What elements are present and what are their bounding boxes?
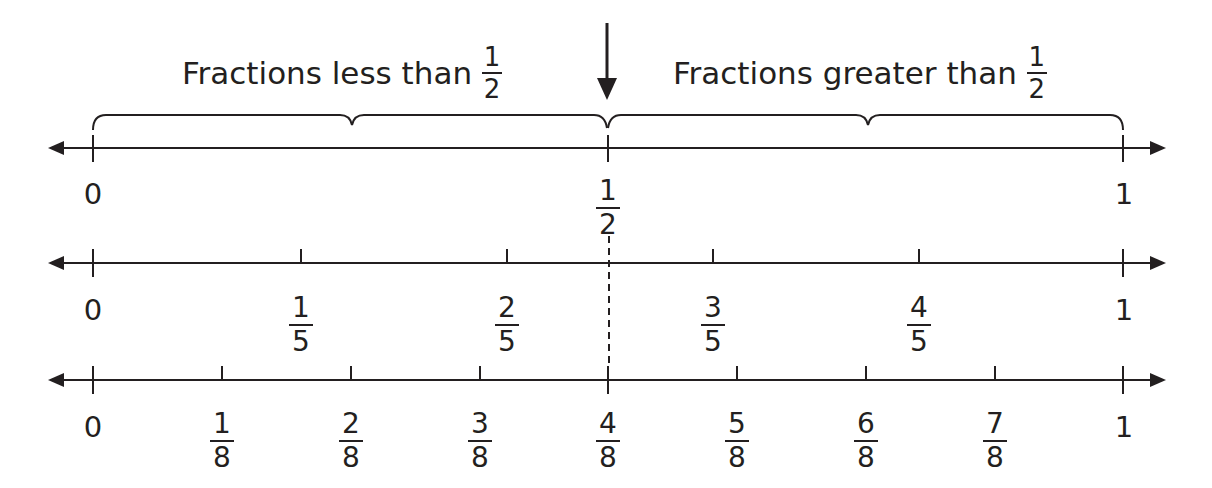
heading-fraction: 1 2 — [1027, 44, 1047, 102]
denominator: 5 — [910, 326, 928, 356]
denominator: 5 — [498, 326, 516, 356]
label-2-5: 2 5 — [495, 294, 519, 356]
left-arrow-icon — [48, 373, 64, 387]
denominator: 8 — [857, 442, 875, 472]
denominator: 8 — [599, 442, 617, 472]
label-3-5: 3 5 — [701, 294, 725, 356]
denominator: 8 — [728, 442, 746, 472]
label-1: 1 — [1115, 180, 1133, 209]
left-arrow-icon — [48, 141, 64, 155]
numerator: 7 — [985, 410, 1005, 440]
heading-text: Fractions less than — [182, 55, 472, 91]
denominator: 2 — [599, 209, 617, 239]
numerator: 2 — [497, 294, 517, 324]
label-0: 0 — [84, 413, 102, 442]
label-5-8: 5 8 — [725, 410, 749, 472]
numerator: 1 — [1029, 44, 1046, 70]
numerator: 1 — [212, 410, 232, 440]
right-brace — [608, 115, 1123, 130]
numerator: 1 — [484, 44, 501, 70]
numerator: 4 — [909, 294, 929, 324]
label-1-5: 1 5 — [289, 294, 313, 356]
label-3-8: 3 8 — [468, 410, 492, 472]
right-arrow-icon — [1150, 373, 1166, 387]
label-4-5: 4 5 — [907, 294, 931, 356]
heading-text: Fractions greater than — [673, 55, 1017, 91]
denominator: 5 — [704, 326, 722, 356]
denominator: 8 — [213, 442, 231, 472]
heading-less-than-half: Fractions less than 1 2 — [182, 44, 502, 102]
label-1: 1 — [1115, 413, 1133, 442]
numerator: 4 — [598, 410, 618, 440]
down-arrow-icon — [597, 78, 617, 100]
label-4-8: 4 8 — [596, 410, 620, 472]
numerator: 3 — [703, 294, 723, 324]
right-arrow-icon — [1150, 256, 1166, 270]
numerator: 5 — [727, 410, 747, 440]
label-1-2: 1 2 — [596, 177, 620, 239]
numerator: 2 — [341, 410, 361, 440]
label-7-8: 7 8 — [983, 410, 1007, 472]
denominator: 5 — [292, 326, 310, 356]
denominator: 8 — [342, 442, 360, 472]
denominator: 2 — [1029, 76, 1046, 102]
numerator: 3 — [470, 410, 490, 440]
denominator: 2 — [484, 76, 501, 102]
numerator: 6 — [856, 410, 876, 440]
denominator: 8 — [471, 442, 489, 472]
label-6-8: 6 8 — [854, 410, 878, 472]
heading-greater-than-half: Fractions greater than 1 2 — [673, 44, 1047, 102]
right-arrow-icon — [1150, 141, 1166, 155]
label-0: 0 — [84, 296, 102, 325]
numerator: 1 — [598, 177, 618, 207]
left-brace — [93, 115, 607, 130]
label-1: 1 — [1115, 296, 1133, 325]
numerator: 1 — [291, 294, 311, 324]
denominator: 8 — [986, 442, 1004, 472]
heading-fraction: 1 2 — [482, 44, 502, 102]
label-1-8: 1 8 — [210, 410, 234, 472]
left-arrow-icon — [48, 256, 64, 270]
label-0: 0 — [84, 180, 102, 209]
label-2-8: 2 8 — [339, 410, 363, 472]
